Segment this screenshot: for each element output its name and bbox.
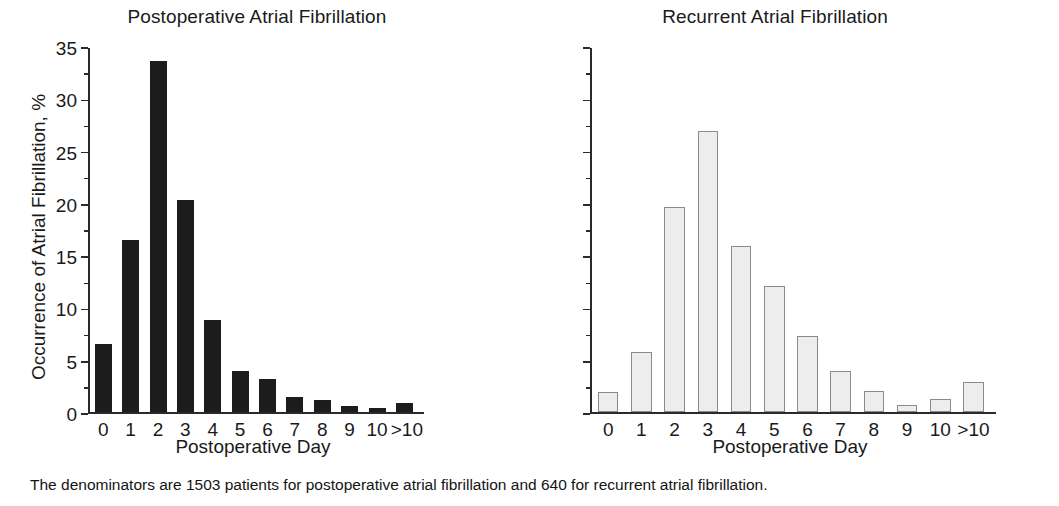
bar xyxy=(150,61,167,413)
bar-slot: >10 xyxy=(957,48,990,412)
bar xyxy=(396,403,413,412)
y-axis-tick xyxy=(81,204,88,206)
figure-container: Postoperative Atrial Fibrillation Occurr… xyxy=(0,0,1059,506)
x-axis-line xyxy=(590,412,996,414)
bar-slot: 6 xyxy=(791,48,824,412)
y-axis-minor-tick xyxy=(586,283,590,284)
y-axis-tick-label: 30 xyxy=(56,91,77,110)
y-axis-tick xyxy=(583,47,590,49)
y-axis-tick-label: 25 xyxy=(56,143,77,162)
bar xyxy=(232,371,249,413)
chart-title-recurrent: Recurrent Atrial Fibrillation xyxy=(540,6,1010,28)
y-axis-tick-label: 35 xyxy=(56,39,77,58)
bar-slot: 4 xyxy=(199,48,226,412)
y-axis-minor-tick xyxy=(84,335,88,336)
bar xyxy=(314,400,331,412)
bar-slot: 7 xyxy=(281,48,308,412)
y-axis-tick xyxy=(583,152,590,154)
y-axis-minor-tick xyxy=(586,126,590,127)
y-axis-tick xyxy=(583,413,590,415)
y-axis-tick xyxy=(81,361,88,363)
x-axis-title-right: Postoperative Day xyxy=(590,436,990,458)
bar-slot: 7 xyxy=(824,48,857,412)
bar-slot: 2 xyxy=(658,48,691,412)
bar-slot: 0 xyxy=(592,48,625,412)
y-axis-minor-tick xyxy=(586,178,590,179)
y-axis-minor-tick xyxy=(84,283,88,284)
y-axis-tick-label: 10 xyxy=(56,300,77,319)
y-axis-minor-tick xyxy=(586,335,590,336)
bar xyxy=(259,379,276,412)
y-axis-minor-tick xyxy=(84,73,88,74)
bar-slot: 3 xyxy=(691,48,724,412)
y-axis-tick xyxy=(583,100,590,102)
y-axis-title: Occurrence of Atrial Fibrillation, % xyxy=(28,57,50,417)
bar xyxy=(830,371,851,413)
bar-slot: 9 xyxy=(336,48,363,412)
bar xyxy=(598,392,619,413)
bar-slot: 1 xyxy=(625,48,658,412)
bar xyxy=(204,320,221,413)
y-axis-tick xyxy=(81,152,88,154)
bar-slot: 8 xyxy=(857,48,890,412)
bar-series-recurrent: 012345678910>10 xyxy=(592,48,990,412)
bar-slot: 10 xyxy=(363,48,390,412)
y-axis-minor-tick xyxy=(586,230,590,231)
y-axis-tick-label: 0 xyxy=(66,405,77,424)
plot-area-recurrent: 012345678910>10 xyxy=(590,48,990,414)
y-axis-tick xyxy=(583,256,590,258)
bar-slot: 10 xyxy=(924,48,957,412)
bar xyxy=(341,406,358,412)
bar-slot: >10 xyxy=(391,48,418,412)
y-axis-minor-tick xyxy=(586,73,590,74)
bar xyxy=(963,382,984,412)
y-axis-minor-tick xyxy=(84,230,88,231)
bar xyxy=(95,344,112,413)
bar xyxy=(930,399,951,413)
x-axis-title-left: Postoperative Day xyxy=(88,436,418,458)
figure-caption: The denominators are 1503 patients for p… xyxy=(30,476,768,494)
x-axis-line xyxy=(88,412,424,414)
y-axis-tick xyxy=(81,309,88,311)
y-axis-minor-tick xyxy=(84,178,88,179)
chart-panel-postoperative: Postoperative Atrial Fibrillation Occurr… xyxy=(0,0,530,470)
y-axis-tick-label: 15 xyxy=(56,248,77,267)
chart-panel-recurrent: Recurrent Atrial Fibrillation 0123456789… xyxy=(530,0,1059,470)
y-axis-tick xyxy=(583,309,590,311)
bar-slot: 0 xyxy=(90,48,117,412)
y-axis-tick xyxy=(583,361,590,363)
y-axis-tick xyxy=(81,100,88,102)
bar xyxy=(664,207,685,412)
bar xyxy=(122,240,139,413)
y-axis-tick xyxy=(81,47,88,49)
bar xyxy=(286,397,303,413)
bar-slot: 5 xyxy=(226,48,253,412)
bar xyxy=(177,200,194,412)
y-axis-tick xyxy=(81,256,88,258)
y-axis-tick xyxy=(583,204,590,206)
bar-slot: 5 xyxy=(758,48,791,412)
y-axis-minor-tick xyxy=(84,387,88,388)
bar-slot: 9 xyxy=(890,48,923,412)
bar xyxy=(369,408,386,412)
bar-slot: 4 xyxy=(724,48,757,412)
y-axis-minor-tick xyxy=(84,126,88,127)
bar xyxy=(864,391,885,413)
plot-area-postoperative: 05101520253035 012345678910>10 xyxy=(88,48,418,414)
bar-slot: 3 xyxy=(172,48,199,412)
bar-slot: 2 xyxy=(144,48,171,412)
bar xyxy=(764,286,785,412)
bar-slot: 6 xyxy=(254,48,281,412)
bar-series-postoperative: 012345678910>10 xyxy=(90,48,418,412)
y-axis-minor-tick xyxy=(586,387,590,388)
bar xyxy=(698,131,719,412)
bar-slot: 1 xyxy=(117,48,144,412)
y-axis-tick-label: 5 xyxy=(66,352,77,371)
bar xyxy=(631,352,652,412)
bar-slot: 8 xyxy=(309,48,336,412)
y-axis-tick-label: 20 xyxy=(56,195,77,214)
bar xyxy=(897,405,918,412)
y-axis-tick xyxy=(81,413,88,415)
bar xyxy=(731,246,752,413)
bar xyxy=(797,336,818,412)
